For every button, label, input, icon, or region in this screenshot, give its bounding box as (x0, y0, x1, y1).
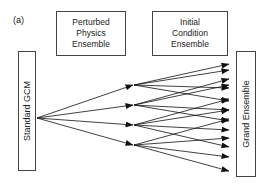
ensemble-arrows (0, 0, 271, 186)
